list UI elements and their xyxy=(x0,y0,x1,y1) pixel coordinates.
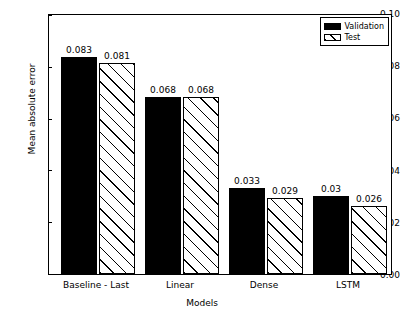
x-tick-label-3: LSTM xyxy=(336,280,360,290)
legend-label-test: Test xyxy=(344,33,360,42)
bar-value-validation-linear: 0.068 xyxy=(150,85,176,95)
x-tick-label-1: Linear xyxy=(166,280,194,290)
bar-test-linear xyxy=(183,97,219,275)
legend-swatch-test-icon xyxy=(324,34,341,41)
bar-test-dense xyxy=(267,198,303,274)
legend-item-validation: Validation xyxy=(324,21,384,31)
bar-validation-baseline-last xyxy=(61,57,97,274)
y-axis-label: Mean absolute error xyxy=(27,29,37,189)
bar-test-baseline-last xyxy=(99,63,135,275)
y-tick-mark-4 xyxy=(49,67,52,68)
bar-value-validation-dense: 0.033 xyxy=(234,176,260,186)
x-tick-label-2: Dense xyxy=(250,280,278,290)
legend: Validation Test xyxy=(320,17,389,46)
y-tick-mark-1 xyxy=(49,222,52,223)
legend-label-validation: Validation xyxy=(344,22,384,31)
y-tick-mark-2 xyxy=(49,170,52,171)
bar-value-test-lstm: 0.026 xyxy=(356,194,382,204)
x-axis-label: Models xyxy=(0,298,404,308)
y-tick-mark-0 xyxy=(49,274,52,275)
bar-value-test-linear: 0.068 xyxy=(188,85,214,95)
y-tick-mark-3 xyxy=(49,119,52,120)
plot-area: 0.083 0.081 0.068 0.068 0.033 0.029 0.03… xyxy=(48,14,392,275)
bar-value-test-baseline-last: 0.081 xyxy=(104,51,130,61)
bar-validation-lstm xyxy=(313,196,349,274)
y-tick-mark-5 xyxy=(49,15,52,16)
bar-validation-dense xyxy=(229,188,265,274)
legend-swatch-validation-icon xyxy=(324,23,341,30)
bar-chart-figure: Mean absolute error Models 0.00 0.02 0.0… xyxy=(0,0,404,315)
legend-item-test: Test xyxy=(324,32,384,42)
bar-value-validation-lstm: 0.03 xyxy=(321,184,341,194)
bar-value-validation-baseline-last: 0.083 xyxy=(66,45,92,55)
x-tick-label-0: Baseline - Last xyxy=(63,280,129,290)
bar-test-lstm xyxy=(351,206,387,274)
bar-validation-linear xyxy=(145,97,181,275)
bar-value-test-dense: 0.029 xyxy=(272,186,298,196)
